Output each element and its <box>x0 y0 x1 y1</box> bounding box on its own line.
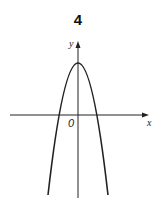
parabola-diagram: 4 x y 0 <box>0 0 159 206</box>
y-axis-label: y <box>68 38 74 49</box>
x-axis-label: x <box>146 117 152 128</box>
y-axis-arrow-icon <box>76 41 81 48</box>
figure-number: 4 <box>74 11 83 28</box>
origin-label: 0 <box>68 117 75 129</box>
